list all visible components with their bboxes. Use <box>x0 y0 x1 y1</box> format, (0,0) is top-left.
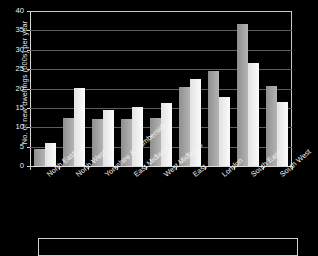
bar-group <box>234 11 263 166</box>
y-axis-tick-mark <box>27 11 30 12</box>
y-axis-tick-label: 30 <box>0 45 24 54</box>
bar-group <box>146 11 175 166</box>
y-axis-tick-label: 0 <box>0 161 24 170</box>
y-axis-tick-mark <box>27 89 30 90</box>
bar-group <box>205 11 234 166</box>
y-axis-tick-label: 40 <box>0 6 24 15</box>
y-axis-tick-label: 35 <box>0 25 24 34</box>
x-axis-line <box>30 166 292 167</box>
y-axis-tick-mark <box>27 69 30 70</box>
bar <box>237 24 248 166</box>
y-axis-tick-label: 10 <box>0 122 24 131</box>
y-axis-tick-label: 5 <box>0 142 24 151</box>
y-axis-tick-mark <box>27 50 30 51</box>
bar <box>103 110 114 166</box>
bar-group <box>88 11 117 166</box>
x-axis-tick-mark <box>30 166 31 170</box>
bar-groups <box>30 11 292 166</box>
y-axis-tick-label: 20 <box>0 84 24 93</box>
bar <box>219 97 230 166</box>
y-axis-tick-mark <box>27 108 30 109</box>
y-axis-tick-mark <box>27 127 30 128</box>
bar <box>248 63 259 166</box>
y-axis-tick-mark <box>27 147 30 148</box>
y-axis-tick-label: 25 <box>0 64 24 73</box>
legend-box <box>38 238 298 256</box>
bar-group <box>59 11 88 166</box>
y-axis-tick-mark <box>27 30 30 31</box>
bar <box>34 149 45 166</box>
bar-group <box>30 11 59 166</box>
plot-area <box>30 11 292 166</box>
bar <box>208 71 219 166</box>
y-axis-tick-label: 15 <box>0 103 24 112</box>
bar-group <box>263 11 292 166</box>
